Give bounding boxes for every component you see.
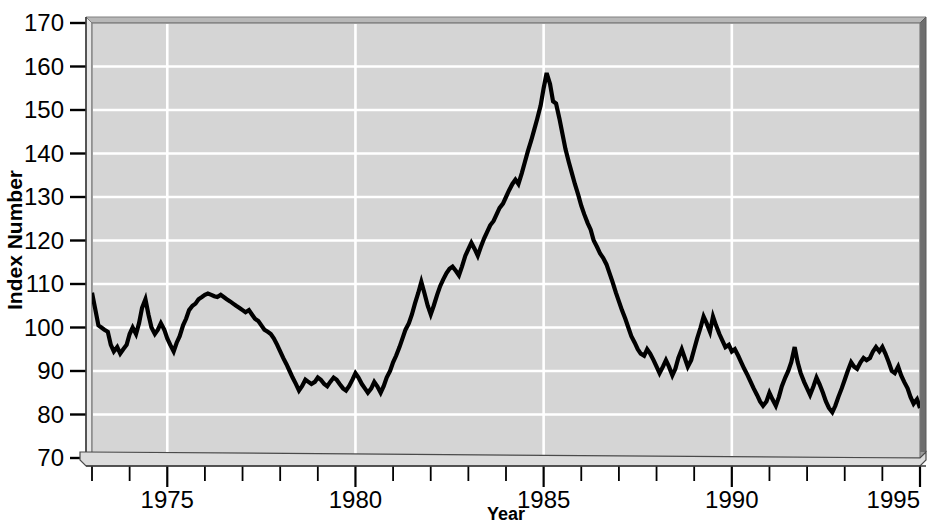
y-axis-title: Index Number [3,170,26,310]
y-tick-label: 160 [24,53,64,80]
y-tick-label: 70 [37,444,64,471]
y-tick-label: 130 [24,183,64,210]
x-tick-label: 1990 [705,486,758,513]
y-tick-label: 80 [37,401,64,428]
x-axis-ticks [92,466,920,487]
y-axis-ticks [70,23,86,458]
y-tick-label: 100 [24,314,64,341]
x-tick-label: 1995 [867,486,920,513]
y-tick-label: 150 [24,96,64,123]
y-tick-label: 140 [24,140,64,167]
x-axis-title: Year [487,504,525,524]
chart-figure: 708090100110120130140150160170 197519801… [0,0,945,532]
line-chart-canvas: 708090100110120130140150160170 197519801… [0,0,945,532]
y-tick-label: 120 [24,227,64,254]
y-axis-tick-labels: 708090100110120130140150160170 [24,9,64,471]
x-axis-tick-labels: 19751980198519901995 [141,486,920,513]
y-tick-label: 110 [26,270,64,297]
x-tick-label: 1975 [141,486,194,513]
y-tick-label: 90 [37,357,64,384]
x-tick-label: 1980 [329,486,382,513]
y-tick-label: 170 [24,9,64,36]
